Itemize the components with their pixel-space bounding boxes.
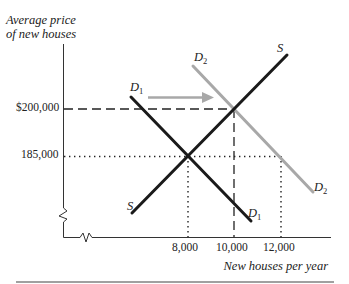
x-tick-12000: 12,000 <box>263 241 295 253</box>
y-tick-200000: $200,000 <box>16 101 59 113</box>
y-tick-185000: 185,000 <box>21 148 58 160</box>
label-d1-top: D1 <box>130 80 143 96</box>
demand-curve-d2 <box>193 66 313 192</box>
supply-curve-s <box>132 55 287 213</box>
y-axis <box>59 44 67 238</box>
x-tick-10000: 10,000 <box>216 241 248 253</box>
label-d1-bottom: D1 <box>248 206 261 222</box>
shift-arrow-icon <box>148 92 214 103</box>
x-tick-8000: 8,000 <box>172 241 198 253</box>
label-s-bottom: S <box>127 199 133 214</box>
label-s-top: S <box>277 41 283 56</box>
demand-curve-d1 <box>131 97 251 221</box>
label-d2-top: D2 <box>194 50 207 66</box>
bottom-divider <box>16 281 334 283</box>
x-axis-label: New houses per year <box>224 259 329 274</box>
label-d2-bottom: D2 <box>314 180 327 196</box>
